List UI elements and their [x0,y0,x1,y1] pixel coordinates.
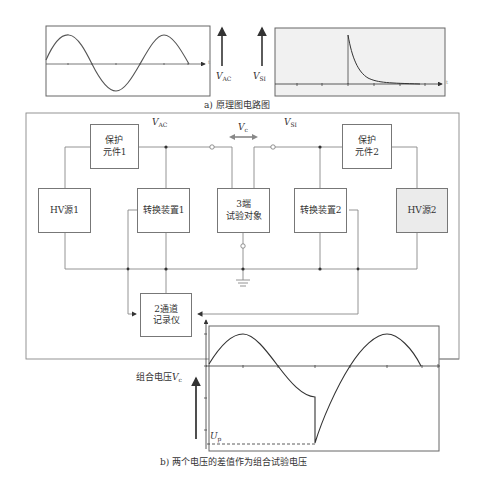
vac-chart [46,26,210,96]
vc-chart [204,320,440,451]
circuit-vc-label: Vc [238,123,248,133]
caption-a: a) 原理图电路图 [204,98,270,111]
hv-source-1: HV源1 [38,188,91,233]
caption-b: b) 两个电压的差值作为组合试验电压 [160,455,307,468]
vsi-label: VSI [253,72,266,82]
vc-double-arrow [229,134,258,140]
protection-element-1: 保护元件1 [90,124,139,169]
converter-1: 转换装置1 [137,188,190,233]
protection-element-2: 保护元件2 [342,124,392,169]
two-channel-recorder: 2通道记录仪 [140,293,192,337]
test-object-3-terminal: 3端试验对象 [217,188,270,233]
circuit-vac-label: VAC [152,118,167,128]
circuit-vsi-label: VSI [284,118,297,128]
converter-2: 转换装置2 [294,188,347,233]
vsi-axis-t-label: t [446,80,448,85]
vsi-chart [275,28,445,96]
vac-axis-t-label: t [208,60,210,65]
hv-source-2: HV源2 [396,188,448,233]
vac-label: VAC [216,72,231,82]
combined-voltage-label: 组合电压Vc [136,373,182,383]
up-label: Up [210,432,221,442]
diagram-canvas [0,0,482,487]
